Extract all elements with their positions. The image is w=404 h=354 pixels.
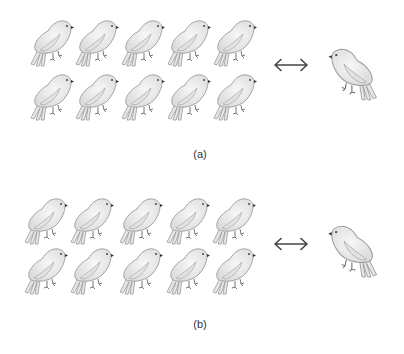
bird-icon <box>22 194 70 246</box>
bird-icon <box>165 16 213 68</box>
bird-icon <box>68 244 116 296</box>
bird-icon <box>68 194 116 246</box>
bird-icon <box>117 244 165 296</box>
bird-icon <box>119 70 167 122</box>
caption-a: (a) <box>180 148 220 160</box>
bird-icon <box>211 16 259 68</box>
bird-icon <box>73 70 121 122</box>
panel-a: (a) <box>0 0 404 175</box>
single-bird-icon <box>326 44 380 102</box>
bird-icon <box>164 244 212 296</box>
double-headed-arrow-icon <box>273 237 309 251</box>
bird-icon <box>119 16 167 68</box>
bird-icon <box>164 194 212 246</box>
caption-b: (b) <box>180 318 220 330</box>
bird-icon <box>22 244 70 296</box>
bird-icon <box>73 16 121 68</box>
bird-icon <box>28 70 76 122</box>
double-headed-arrow-icon <box>273 58 309 72</box>
bird-icon <box>211 70 259 122</box>
panel-b: (b) <box>0 180 404 354</box>
bird-icon <box>165 70 213 122</box>
single-bird-icon <box>326 220 380 280</box>
bird-icon <box>117 194 165 246</box>
bird-icon <box>210 194 258 246</box>
bird-icon <box>28 16 76 68</box>
bird-icon <box>210 244 258 296</box>
